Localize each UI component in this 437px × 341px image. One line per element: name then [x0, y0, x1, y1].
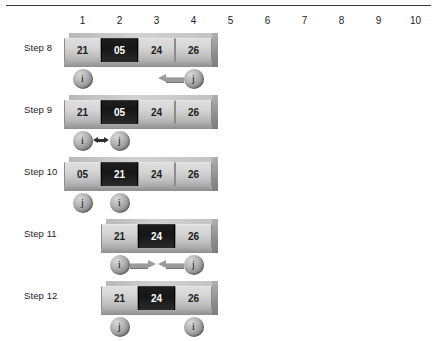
array-cell: 21	[101, 224, 138, 248]
index-marker-i: i	[184, 317, 204, 337]
array-cells: 21052426	[64, 38, 212, 62]
array-bar-base-face	[64, 186, 212, 191]
arrow-head	[148, 260, 156, 268]
arrow-head	[158, 260, 166, 268]
step-label: Step 11	[24, 228, 57, 240]
array-cell: 24	[138, 162, 175, 186]
direction-arrow-left	[158, 260, 184, 269]
index-marker-i: i	[73, 69, 93, 89]
array-bar: 21052426	[64, 95, 218, 129]
array-bar: 212426	[101, 281, 218, 315]
array-cells: 212426	[101, 286, 212, 310]
swap-arrow-bidirectional	[93, 137, 109, 144]
step-row: Step 1005212426ji	[0, 157, 437, 215]
array-cells: 21052426	[64, 100, 212, 124]
column-header-7: 7	[295, 14, 315, 27]
array-bar: 05212426	[64, 157, 218, 191]
array-cells: 05212426	[64, 162, 212, 186]
arrow-head	[158, 74, 166, 82]
array-cell: 24	[138, 100, 175, 124]
direction-arrow-right	[130, 260, 156, 269]
column-header-8: 8	[332, 14, 352, 27]
array-cell: 21	[64, 38, 101, 62]
arrow-shaft	[130, 263, 148, 269]
step-label: Step 9	[24, 104, 52, 116]
index-marker-i: i	[73, 131, 93, 151]
sorting-trace-figure: 12345678910 Step 821052426ijStep 9210524…	[0, 0, 437, 341]
index-marker-i: i	[110, 193, 130, 213]
step-row: Step 921052426ij	[0, 95, 437, 153]
array-bar-side-face	[212, 281, 218, 315]
column-header-3: 3	[147, 14, 167, 27]
array-bar-base-face	[64, 124, 212, 129]
column-header-5: 5	[221, 14, 241, 27]
array-cell: 26	[175, 38, 212, 62]
step-row: Step 821052426ij	[0, 33, 437, 91]
array-cell-highlighted: 24	[138, 286, 175, 310]
array-cell-highlighted: 05	[101, 100, 138, 124]
index-marker-j: j	[184, 69, 204, 89]
column-header-1: 1	[73, 14, 93, 27]
array-bar-base-face	[64, 62, 212, 67]
index-marker-j: j	[73, 193, 93, 213]
array-cell: 26	[175, 100, 212, 124]
column-header-10: 10	[406, 14, 426, 27]
array-bar-side-face	[212, 219, 218, 253]
array-cell-highlighted: 05	[101, 38, 138, 62]
step-label: Step 8	[24, 42, 52, 54]
arrow-head-right	[104, 137, 109, 143]
column-header-6: 6	[258, 14, 278, 27]
array-cell: 26	[175, 162, 212, 186]
index-marker-j: j	[110, 317, 130, 337]
array-bar: 212426	[101, 219, 218, 253]
arrow-shaft	[166, 263, 184, 269]
column-header-9: 9	[369, 14, 389, 27]
column-header-row: 12345678910	[0, 14, 437, 28]
array-cell-highlighted: 24	[138, 224, 175, 248]
array-bar-base-face	[101, 248, 212, 253]
arrow-head-left	[93, 137, 98, 143]
step-label: Step 10	[24, 166, 57, 178]
array-bar-side-face	[212, 95, 218, 129]
array-bar-side-face	[212, 33, 218, 67]
direction-arrow-left	[158, 74, 184, 83]
index-marker-j: j	[184, 255, 204, 275]
step-label: Step 12	[24, 290, 57, 302]
array-bar: 21052426	[64, 33, 218, 67]
column-header-2: 2	[110, 14, 130, 27]
step-row: Step 12212426ji	[0, 281, 437, 339]
index-marker-i: i	[110, 255, 130, 275]
array-cell: 26	[175, 224, 212, 248]
step-row: Step 11212426ij	[0, 219, 437, 277]
array-bar-side-face	[212, 157, 218, 191]
array-cell: 24	[138, 38, 175, 62]
index-marker-j: j	[110, 131, 130, 151]
top-divider-rule	[6, 5, 431, 6]
column-header-4: 4	[184, 14, 204, 27]
array-cell: 26	[175, 286, 212, 310]
arrow-shaft	[166, 77, 184, 83]
array-cell: 21	[101, 286, 138, 310]
array-bar-base-face	[101, 310, 212, 315]
array-cell: 05	[64, 162, 101, 186]
array-cell-highlighted: 21	[101, 162, 138, 186]
array-cell: 21	[64, 100, 101, 124]
array-cells: 212426	[101, 224, 212, 248]
